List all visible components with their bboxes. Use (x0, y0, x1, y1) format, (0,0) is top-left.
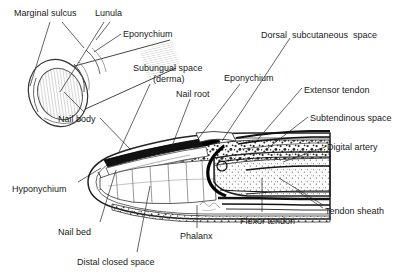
label-dorsal-subcutaneous-space: Dorsal subcutaneous space (261, 30, 377, 40)
label-extensor-tendon: Extensor tendon (304, 85, 370, 95)
oblique-fingertip-drawing (19, 40, 180, 135)
sagittal-section-drawing (88, 131, 330, 222)
label-hyponychium: Hyponychium (12, 184, 67, 194)
label-nail-body: Nail body (58, 114, 96, 124)
label-eponychium-top: Eponychium (123, 29, 173, 39)
label-distal-closed-space: Distal closed space (77, 257, 155, 267)
label-subtendinous-space: Subtendinous space (310, 113, 392, 123)
label-marginal-sulcus: Marginal sulcus (14, 8, 77, 18)
label-subungual-space-derma: (derma) (153, 74, 185, 84)
label-lunula: Lunula (95, 8, 122, 18)
label-digital-artery: Digital artery (327, 142, 378, 152)
label-phalanx: Phalanx (180, 231, 213, 241)
leader-eponychium-top (94, 34, 121, 52)
label-flexor-tendon: Flexor tendon (240, 216, 295, 226)
label-nail-root: Nail root (176, 89, 210, 99)
label-nail-bed: Nail bed (58, 227, 91, 237)
leader-dorsal-sub (222, 38, 290, 141)
label-subungual-space: Subungual space (133, 63, 203, 73)
leader-marginal-sulcus-b (62, 22, 84, 48)
label-tendon-sheath: Tendon sheath (325, 206, 384, 216)
leader-nail-body-2 (100, 118, 131, 150)
label-eponychium-mid: Eponychium (224, 73, 274, 83)
